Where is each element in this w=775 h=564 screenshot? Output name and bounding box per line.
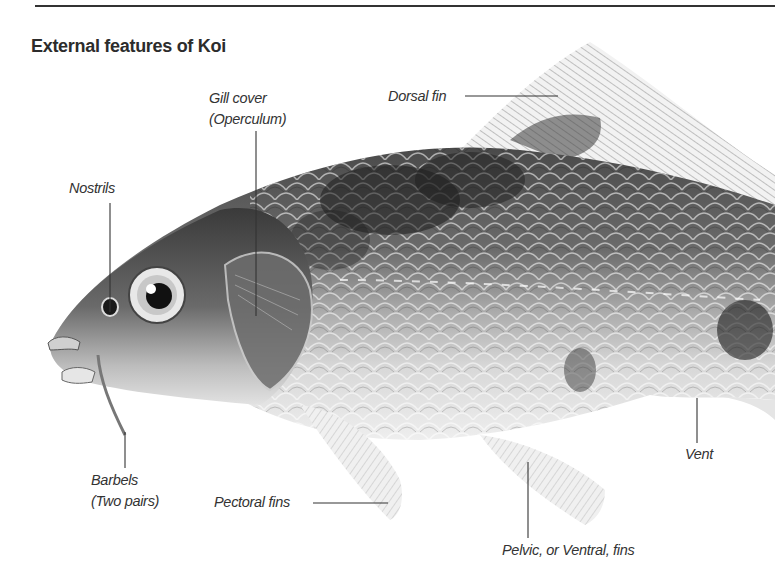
label-gill-cover: Gill cover (Operculum) [209,88,286,130]
label-pelvic-fins: Pelvic, or Ventral, fins [502,540,634,561]
label-vent: Vent [685,444,713,465]
fish-body [48,140,775,450]
label-pectoral-fins: Pectoral fins [214,492,290,513]
label-barbels: Barbels (Two pairs) [91,470,159,512]
eye [129,267,185,323]
pelvic-fin [480,435,605,525]
label-nostrils: Nostrils [69,178,115,199]
label-dorsal-fin: Dorsal fin [388,86,446,107]
